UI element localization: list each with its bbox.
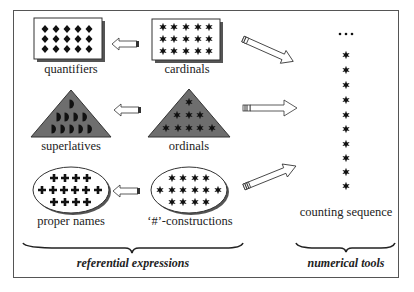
proper-names-ellipse [33,167,111,215]
hash-constructions-ellipse [151,167,229,215]
arrow-hash-to-counting [241,160,298,194]
arrow-cardinals-to-quantifiers [112,38,139,50]
cardinals-box [152,19,223,63]
arrow-ordinals-to-counting [243,100,297,116]
arrow-hash-to-proper-names [113,185,140,197]
arrow-ordinals-to-superlatives [114,104,141,116]
brace-referential [23,243,243,253]
ordinals-triangle [148,89,230,137]
star-icons [342,51,349,190]
superlatives-label: superlatives [41,139,101,154]
counting-sequence-column [339,33,354,191]
quantifiers-box [34,18,105,62]
referential-expressions-label: referential expressions [77,256,189,271]
ordinals-label: ordinals [169,139,209,154]
brace-numerical [296,243,395,252]
cardinals-label: cardinals [164,62,209,77]
quantifiers-label: quantifiers [44,62,97,77]
proper-names-label: proper names [37,214,105,229]
numerical-tools-label: numerical tools [307,256,384,271]
ellipsis-dots [339,33,354,36]
hash-constructions-label: ‘#’-constructions [147,214,232,229]
arrow-cardinals-to-counting [240,33,296,68]
superlatives-triangle [31,90,111,137]
counting-sequence-label: counting sequence [300,205,393,220]
